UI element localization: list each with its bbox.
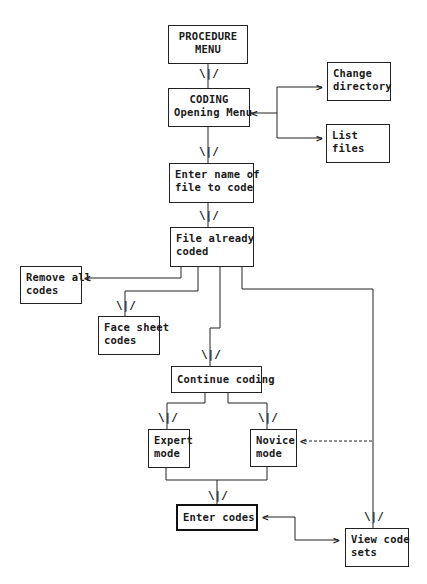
- node-label: PROCEDURE: [174, 30, 242, 43]
- node-label: List: [332, 129, 384, 142]
- node-label: mode: [256, 447, 291, 460]
- enter-codes-box: Enter codes: [176, 504, 258, 531]
- node-label: MENU: [174, 43, 242, 56]
- change-directory-box: Change directory: [327, 62, 391, 101]
- down-arrow-icon: \|/: [208, 490, 228, 501]
- expert-mode-box: Expert mode: [148, 429, 190, 468]
- novice-mode-box: Novice mode: [250, 429, 297, 467]
- node-label: files: [332, 142, 384, 155]
- node-label: coded: [176, 245, 248, 258]
- node-label: Opening Menu: [174, 106, 244, 119]
- view-code-sets-box: View code sets: [345, 528, 409, 567]
- node-label: Change: [333, 67, 385, 80]
- continue-coding-box: Continue coding: [171, 366, 262, 393]
- node-label: mode: [154, 447, 184, 460]
- node-label: Enter codes: [183, 511, 251, 524]
- left-arrow-icon: <: [262, 512, 269, 523]
- node-label: Novice: [256, 434, 291, 447]
- node-label: codes: [104, 334, 154, 347]
- down-arrow-icon: \|/: [199, 68, 219, 79]
- right-arrow-icon: >: [316, 133, 323, 144]
- list-files-box: List files: [326, 124, 390, 163]
- node-label: Continue coding: [177, 373, 256, 386]
- left-arrow-icon: <: [300, 436, 307, 447]
- coding-opening-menu-box: CODING Opening Menu: [168, 88, 250, 127]
- node-label: File already: [176, 232, 248, 245]
- down-arrow-icon: \|/: [201, 349, 221, 360]
- down-arrow-icon: \|/: [364, 511, 384, 522]
- node-label: file to code: [175, 181, 248, 194]
- down-arrow-icon: \|/: [199, 210, 219, 221]
- node-label: codes: [26, 284, 76, 297]
- node-label: Enter name of: [175, 168, 248, 181]
- right-arrow-icon: >: [333, 535, 340, 546]
- node-label: Remove all: [26, 271, 76, 284]
- file-already-coded-box: File already coded: [170, 227, 254, 267]
- node-label: View code: [351, 533, 403, 546]
- node-label: Expert: [154, 434, 184, 447]
- node-label: CODING: [174, 93, 244, 106]
- procedure-menu-box: PROCEDURE MENU: [168, 25, 248, 64]
- down-arrow-icon: \|/: [258, 412, 278, 423]
- node-label: Face sheet: [104, 321, 154, 334]
- face-sheet-codes-box: Face sheet codes: [98, 316, 160, 355]
- node-label: directory: [333, 80, 385, 93]
- down-arrow-icon: \|/: [199, 146, 219, 157]
- node-label: sets: [351, 546, 403, 559]
- down-arrow-icon: \|/: [116, 300, 136, 311]
- enter-filename-box: Enter name of file to code: [169, 163, 254, 203]
- remove-all-codes-box: Remove all codes: [20, 266, 82, 304]
- down-arrow-icon: \|/: [158, 412, 178, 423]
- right-arrow-icon: >: [316, 82, 323, 93]
